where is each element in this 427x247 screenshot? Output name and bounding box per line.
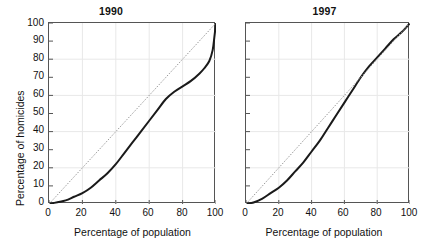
x-tick-label-20: 20 bbox=[266, 208, 290, 218]
plot-canvas-1990 bbox=[49, 23, 216, 204]
chart-panel-1997: 1997 0 20 40 60 80 100 Percentage of pop… bbox=[222, 0, 427, 247]
x-tick-label-60: 60 bbox=[136, 208, 160, 218]
lorenz-curve-figure: 1990 Percentage of homicides 100 90 80 7… bbox=[0, 0, 427, 247]
y-tick-label-60: 60 bbox=[18, 89, 44, 99]
y-tick-label-80: 80 bbox=[18, 53, 44, 63]
y-tick-label-30: 30 bbox=[18, 143, 44, 153]
x-tick-label-80: 80 bbox=[170, 208, 194, 218]
x-tick-label-40: 40 bbox=[299, 208, 323, 218]
y-tick-label-70: 70 bbox=[18, 71, 44, 81]
x-tick-label-80: 80 bbox=[364, 208, 388, 218]
y-tick-label-90: 90 bbox=[18, 35, 44, 45]
y-tick-label-20: 20 bbox=[18, 161, 44, 171]
y-tick-label-40: 40 bbox=[18, 125, 44, 135]
panel-title-1990: 1990 bbox=[0, 5, 222, 17]
x-tick-label-20: 20 bbox=[69, 208, 93, 218]
y-tick-label-0: 0 bbox=[18, 197, 44, 207]
x-tick-label-60: 60 bbox=[331, 208, 355, 218]
y-tick-label-100: 100 bbox=[18, 18, 44, 28]
plot-area-1990 bbox=[48, 22, 215, 203]
x-tick-label-0: 0 bbox=[36, 208, 60, 218]
x-tick-label-40: 40 bbox=[103, 208, 127, 218]
plot-canvas-1997 bbox=[246, 23, 410, 204]
panel-title-1997: 1997 bbox=[222, 5, 427, 17]
chart-panel-1990: 1990 Percentage of homicides 100 90 80 7… bbox=[0, 0, 222, 247]
x-axis-title: Percentage of population bbox=[214, 226, 427, 238]
x-tick-label-100: 100 bbox=[397, 208, 421, 218]
y-tick-label-10: 10 bbox=[18, 179, 44, 189]
plot-area-1997 bbox=[245, 22, 409, 203]
y-tick-label-50: 50 bbox=[18, 107, 44, 117]
x-tick-label-0: 0 bbox=[233, 208, 257, 218]
